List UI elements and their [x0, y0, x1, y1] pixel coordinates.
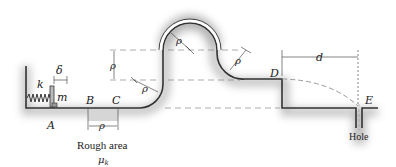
- label-rho-top: ρ: [175, 35, 182, 46]
- label-A: A: [46, 119, 55, 132]
- label-d: d: [316, 51, 323, 64]
- label-B: B: [85, 94, 94, 107]
- delta-dimension: [54, 76, 67, 84]
- track-shadow: [26, 22, 378, 140]
- label-rough-area: Rough area: [77, 139, 128, 151]
- label-E: E: [364, 94, 373, 107]
- label-rho-rough: ρ: [98, 120, 105, 131]
- label-D: D: [269, 67, 279, 80]
- trajectory: [282, 79, 358, 106]
- label-rho-right: ρ: [234, 55, 241, 66]
- label-k: k: [37, 78, 44, 91]
- mechanics-diagram: k m δ A B C ρ Rough area μk ρ ρ ρ ρ D d …: [0, 0, 396, 167]
- label-rho-vertical: ρ: [109, 60, 116, 71]
- label-mu-k: μk: [98, 154, 109, 167]
- label-rho-lower: ρ: [141, 83, 148, 94]
- label-delta: δ: [56, 64, 63, 77]
- mu-subscript: k: [105, 159, 109, 167]
- spring: [27, 94, 50, 102]
- label-m: m: [57, 91, 67, 104]
- label-hole: Hole: [349, 131, 369, 142]
- label-C: C: [112, 94, 121, 107]
